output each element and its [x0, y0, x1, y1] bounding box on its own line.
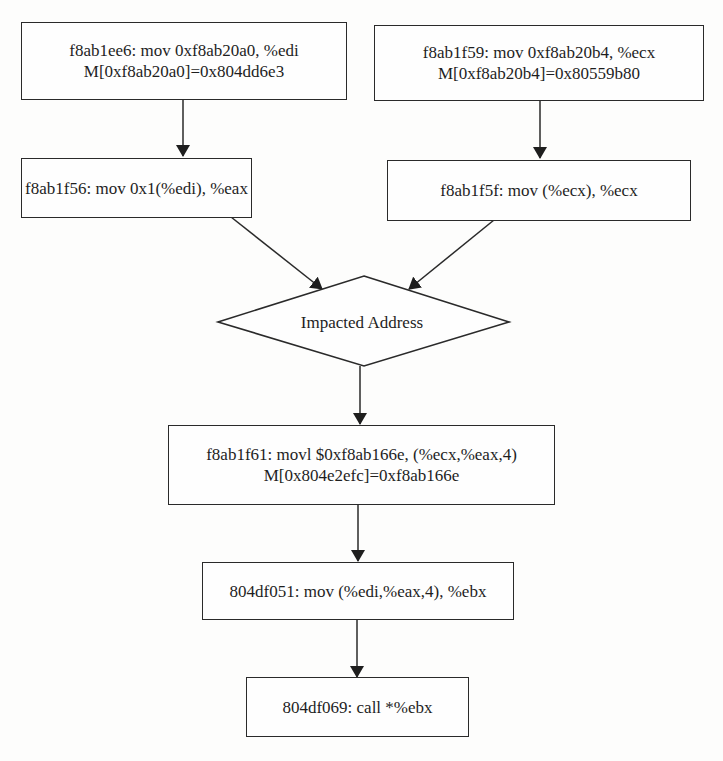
node-804df069: 804df069: call *%ebx [246, 677, 469, 737]
node-f8ab1f56: f8ab1f56: mov 0x1(%edi), %eax [21, 158, 252, 218]
edges-layer [0, 0, 723, 761]
node-804df051: 804df051: mov (%edi,%eax,4), %ebx [202, 562, 514, 620]
node-f8ab1f5f: f8ab1f5f: mov (%ecx), %ecx [387, 160, 691, 221]
node-line: f8ab1f59: mov 0xf8ab20b4, %ecx [423, 42, 655, 63]
node-line: 804df051: mov (%edi,%eax,4), %ebx [230, 581, 487, 602]
node-f8ab1f61: f8ab1f61: movl $0xf8ab166e, (%ecx,%eax,4… [168, 425, 555, 505]
node-line: f8ab1f61: movl $0xf8ab166e, (%ecx,%eax,4… [206, 444, 517, 465]
node-f8ab1f59: f8ab1f59: mov 0xf8ab20b4, %ecx M[0xf8ab2… [374, 25, 704, 101]
node-line: 804df069: call *%ebx [282, 697, 432, 718]
edge-n3-n5 [231, 217, 322, 289]
node-f8ab1ee6: f8ab1ee6: mov 0xf8ab20a0, %edi M[0xf8ab2… [21, 22, 347, 100]
node-line: f8ab1f56: mov 0x1(%edi), %eax [25, 178, 248, 199]
node-line: M[0xf8ab20a0]=0x804dd6e3 [84, 61, 284, 82]
node-line: M[0xf8ab20b4]=0x80559b80 [438, 63, 640, 84]
diamond-label: Impacted Address [301, 313, 423, 333]
edge-n4-n5 [409, 220, 494, 289]
node-line: M[0x804e2efc]=0xf8ab166e [264, 465, 460, 486]
node-line: f8ab1ee6: mov 0xf8ab20a0, %edi [69, 40, 298, 61]
node-line: f8ab1f5f: mov (%ecx), %ecx [440, 180, 637, 201]
diagram-canvas: f8ab1ee6: mov 0xf8ab20a0, %edi M[0xf8ab2… [0, 0, 723, 761]
